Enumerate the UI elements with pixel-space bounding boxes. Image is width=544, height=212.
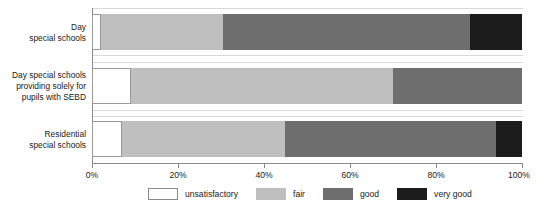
- separator-line: [92, 8, 523, 9]
- category-label-day-special-schools: Day special schools: [0, 22, 92, 44]
- category-label-day-special-schools-sebd: Day special schools providing solely for…: [0, 70, 92, 103]
- x-axis-tick: [350, 163, 351, 168]
- legend-swatch-fair: [256, 188, 286, 200]
- x-axis-tick: [522, 163, 523, 168]
- bar-segment-very-good: [470, 14, 522, 50]
- bar-segment-unsatisfactory: [92, 121, 122, 157]
- x-axis-tick: [264, 163, 265, 168]
- legend-swatch-good: [323, 188, 353, 200]
- bar-segment-unsatisfactory: [92, 68, 131, 104]
- x-axis-tick: [178, 163, 179, 168]
- legend-swatch-unsatisfactory: [148, 188, 178, 200]
- bar-day-special-schools-sebd: [92, 68, 522, 104]
- legend-item-fair: fair: [256, 188, 305, 200]
- bar-segment-good: [285, 121, 496, 157]
- legend-item-unsatisfactory: unsatisfactory: [148, 188, 238, 200]
- bar-segment-good: [223, 14, 470, 50]
- stacked-bar-chart: Day special schools Day special schools …: [0, 0, 544, 212]
- separator-line: [92, 116, 523, 117]
- bar-day-special-schools: [92, 14, 522, 50]
- legend-label: fair: [293, 189, 305, 199]
- x-axis-line: [92, 163, 523, 164]
- legend-item-very-good: very good: [397, 188, 472, 200]
- category-label-line: Day: [0, 22, 86, 33]
- legend-swatch-very-good: [397, 188, 427, 200]
- chart-legend: unsatisfactory fair good very good: [148, 188, 490, 200]
- x-axis-tick: [436, 163, 437, 168]
- x-axis-tick-label: 80%: [427, 170, 444, 180]
- x-axis-tick-label: 20%: [169, 170, 186, 180]
- bar-segment-unsatisfactory: [92, 14, 101, 50]
- category-label-line: special schools: [0, 33, 86, 44]
- category-label-line: Residential: [0, 129, 86, 140]
- category-label-line: providing solely for: [0, 81, 86, 92]
- x-axis-tick-label: 60%: [341, 170, 358, 180]
- x-axis-tick-label: 100%: [508, 170, 530, 180]
- bar-segment-very-good: [496, 121, 522, 157]
- bar-segment-fair: [131, 68, 393, 104]
- bar-residential-special-schools: [92, 121, 522, 157]
- legend-item-good: good: [323, 188, 379, 200]
- separator-line: [92, 55, 523, 56]
- bar-segment-fair: [122, 121, 285, 157]
- category-label-line: special schools: [0, 140, 86, 151]
- category-label-residential-special-schools: Residential special schools: [0, 129, 92, 151]
- legend-label: unsatisfactory: [185, 189, 238, 199]
- x-axis-tick: [92, 163, 93, 168]
- bar-segment-good: [393, 68, 522, 104]
- category-label-line: Day special schools: [0, 70, 86, 81]
- separator-line: [92, 110, 523, 111]
- legend-label: very good: [434, 189, 472, 199]
- bar-segment-fair: [101, 14, 224, 50]
- x-axis-tick-label: 0%: [86, 170, 98, 180]
- separator-line: [92, 62, 523, 63]
- legend-label: good: [360, 189, 379, 199]
- category-label-line: pupils with SEBD: [0, 92, 86, 103]
- x-axis-tick-label: 40%: [255, 170, 272, 180]
